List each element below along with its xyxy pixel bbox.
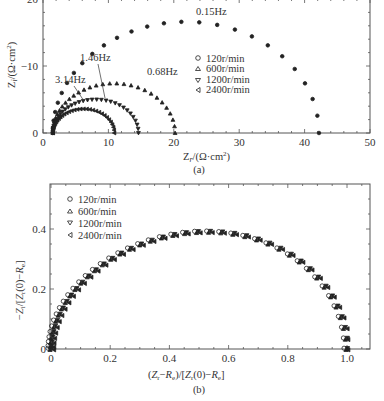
data-point-circle (293, 67, 297, 71)
data-point-circle (60, 91, 64, 95)
data-point-triangle-down (135, 123, 139, 126)
data-point-triangle-up (101, 82, 105, 85)
chart-a-series (51, 20, 321, 135)
x-tick-label: 30 (234, 136, 246, 148)
data-point-triangle-down (118, 104, 122, 107)
annotation-0.15hz: 0.15Hz (196, 6, 227, 17)
chart-b-series (46, 229, 350, 352)
data-point-triangle-down (95, 98, 99, 101)
data-point-triangle-down (104, 99, 108, 102)
data-point-triangle-down (129, 112, 133, 115)
legend-label-600: 600r/min (78, 206, 117, 217)
y-tick-label: −10 (21, 60, 39, 72)
annotation-arrow-3.14hz (74, 86, 84, 101)
data-point-circle (115, 36, 119, 40)
x-tick-label: 0.2 (103, 352, 117, 364)
legend-marker-triangle-up (196, 67, 201, 71)
chart-b-y-axis-label: −Zi/[Zr(0)−Re] (14, 260, 27, 320)
legend-marker-triangle-up (68, 209, 73, 213)
data-point-triangle-up (171, 118, 175, 121)
data-point-triangle-up (115, 82, 119, 85)
chart-a-nyquist: 010203040500−10−20 0.15Hz 0.68Hz 1.46Hz … (5, 0, 376, 176)
data-point-triangle-up (67, 97, 71, 100)
legend-label-1200: 1200r/min (78, 218, 122, 229)
data-point-circle (162, 22, 166, 26)
data-point-triangle-up (173, 124, 177, 127)
chart-a-y-axis-label: Zi/(Ω·cm2) (5, 41, 19, 88)
x-tick-label: 20 (168, 136, 180, 148)
data-point-triangle-up (129, 84, 133, 87)
annotation-0.68hz: 0.68Hz (147, 66, 178, 77)
legend-marker-circle (196, 56, 201, 61)
data-point-triangle-down (134, 119, 138, 122)
data-point-triangle-up (108, 82, 112, 85)
chart-a-legend: 120r/min 600r/min 1200r/min 2400r/min (196, 53, 251, 95)
chart-a-caption: (a) (193, 164, 205, 176)
data-point-circle (316, 114, 320, 118)
data-point-circle (130, 30, 134, 34)
data-point-circle (266, 44, 270, 48)
series-600r-per-min (48, 231, 348, 352)
y-tick-label: 0 (41, 343, 47, 355)
data-point-triangle-up (64, 101, 68, 104)
chart-b-legend: 120r/min 600r/min 1200r/min 2400r/min (68, 194, 123, 241)
data-point-triangle-up (155, 96, 159, 99)
legend-label-2400: 2400r/min (78, 230, 122, 241)
data-point-triangle-down (70, 104, 74, 107)
series-2400r-per-min (52, 231, 350, 352)
x-tick-label: 0.6 (222, 352, 236, 364)
data-point-triangle-down (73, 102, 77, 105)
data-point-triangle-up (72, 94, 76, 97)
data-point-circle (233, 28, 237, 32)
data-point-triangle-down (137, 131, 141, 134)
series-1200r-per-min (50, 229, 350, 350)
x-tick-label: 10 (103, 136, 115, 148)
data-point-triangle-up (136, 86, 140, 89)
annotation-arrow-1.46hz (98, 64, 105, 98)
legend-label-600: 600r/min (206, 63, 245, 74)
y-tick-label: 0.2 (32, 283, 46, 295)
series-120r-per-min (51, 20, 321, 135)
data-point-triangle-up (122, 82, 126, 85)
legend-marker-triangle-left (68, 233, 72, 238)
legend-label-120: 120r/min (78, 194, 117, 205)
chart-b-x-axis-label: (Zr−Re)/[Zr(0)−Re] (148, 369, 224, 382)
y-tick-label: −20 (21, 0, 39, 5)
data-point-circle (180, 20, 184, 24)
data-point-triangle-left (112, 131, 115, 135)
data-point-circle (311, 97, 315, 101)
x-tick-label: 0.8 (281, 352, 295, 364)
data-point-triangle-down (131, 115, 135, 118)
data-point-triangle-down (109, 100, 113, 103)
figure: 010203040500−10−20 0.15Hz 0.68Hz 1.46Hz … (0, 0, 384, 401)
data-point-circle (280, 54, 284, 58)
data-point-triangle-down (90, 98, 94, 101)
data-point-circle (250, 35, 254, 39)
data-point-triangle-down (136, 127, 140, 130)
data-point-triangle-up (94, 84, 98, 87)
data-point-triangle-down (86, 99, 90, 102)
data-point-circle (56, 101, 60, 105)
legend-marker-circle (68, 197, 73, 202)
data-point-triangle-up (149, 92, 153, 95)
data-point-triangle-down (99, 98, 103, 101)
data-point-triangle-up (168, 112, 172, 115)
x-tick-label: 0 (40, 136, 46, 148)
data-point-triangle-up (88, 86, 92, 89)
data-point-triangle-up (143, 88, 147, 91)
y-tick-label: 0 (33, 127, 39, 139)
data-point-circle (145, 25, 149, 29)
data-point-triangle-up (82, 88, 86, 91)
data-point-circle (215, 23, 219, 27)
chart-a-x-axis-label: Zr/(Ω·cm2) (183, 150, 231, 164)
data-point-triangle-up (165, 106, 169, 109)
series-120r-per-min (46, 229, 346, 350)
legend-label-2400: 2400r/min (206, 84, 250, 95)
legend-marker-triangle-down (68, 221, 73, 225)
data-point-circle (303, 82, 307, 86)
x-tick-label: 40 (299, 136, 311, 148)
legend-marker-triangle-left (196, 88, 200, 93)
data-point-circle (197, 21, 201, 25)
x-tick-label: 0.4 (163, 352, 177, 364)
chart-b-caption: (b) (193, 384, 206, 396)
